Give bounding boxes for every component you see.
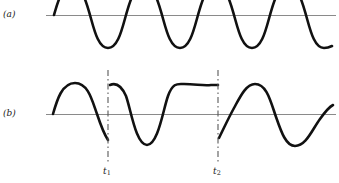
waveform-a-curve xyxy=(54,0,332,48)
waveform-b-segment-3 xyxy=(219,84,333,146)
waveform-figure: (a) (b) t1 t2 xyxy=(0,0,339,183)
time-marker-label-t2: t2 xyxy=(213,166,221,177)
waveform-plot xyxy=(0,0,339,183)
waveform-b-segment-1 xyxy=(53,83,108,140)
time-marker-label-t1-sub: 1 xyxy=(107,169,111,177)
time-marker-label-t2-sub: 2 xyxy=(217,169,221,177)
time-marker-label-t1: t1 xyxy=(103,166,111,177)
